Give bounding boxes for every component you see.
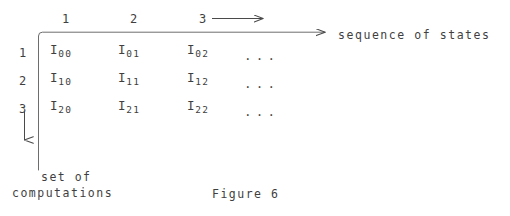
cell-subscript: 01 bbox=[126, 48, 140, 59]
row-ellipsis: ... bbox=[244, 78, 279, 91]
cell-subscript: 02 bbox=[195, 48, 209, 59]
cell-base: I bbox=[50, 98, 58, 113]
row-header-1: 1 bbox=[19, 47, 27, 59]
cell-subscript: 21 bbox=[126, 104, 140, 115]
matrix-cell: I12 bbox=[187, 72, 209, 85]
cell-subscript: 20 bbox=[58, 104, 72, 115]
matrix-cell: I00 bbox=[50, 44, 72, 57]
matrix-cell: I01 bbox=[118, 44, 140, 57]
row-ellipsis: ... bbox=[244, 106, 279, 119]
cell-base: I bbox=[50, 70, 58, 85]
cell-subscript: 00 bbox=[58, 48, 72, 59]
cell-base: I bbox=[118, 42, 126, 57]
matrix-cell: I11 bbox=[118, 72, 140, 85]
cell-subscript: 11 bbox=[126, 76, 140, 87]
cell-base: I bbox=[187, 42, 195, 57]
cell-subscript: 22 bbox=[195, 104, 209, 115]
column-header-3: 3 bbox=[199, 13, 207, 25]
row-header-2: 2 bbox=[19, 75, 27, 87]
matrix-cell: I02 bbox=[187, 44, 209, 57]
vertical-axis-label-line1: set of bbox=[41, 172, 92, 184]
matrix-cell: I10 bbox=[50, 72, 72, 85]
figure-text-layer: 1 2 3 1 2 3 I00 I01 I02 ... I10 I11 I12 … bbox=[0, 0, 510, 216]
figure-caption: Figure 6 bbox=[212, 189, 279, 201]
matrix-cell: I21 bbox=[118, 100, 140, 113]
row-ellipsis: ... bbox=[244, 50, 279, 63]
cell-base: I bbox=[187, 70, 195, 85]
cell-base: I bbox=[118, 70, 126, 85]
horizontal-axis-label: sequence of states bbox=[338, 30, 491, 42]
column-header-2: 2 bbox=[130, 13, 138, 25]
column-header-1: 1 bbox=[62, 13, 70, 25]
vertical-axis-label-line2: computations bbox=[12, 188, 113, 200]
cell-base: I bbox=[50, 42, 58, 57]
cell-base: I bbox=[187, 98, 195, 113]
matrix-cell: I22 bbox=[187, 100, 209, 113]
matrix-cell: I20 bbox=[50, 100, 72, 113]
cell-subscript: 10 bbox=[58, 76, 72, 87]
cell-base: I bbox=[118, 98, 126, 113]
row-header-3: 3 bbox=[19, 103, 27, 115]
cell-subscript: 12 bbox=[195, 76, 209, 87]
